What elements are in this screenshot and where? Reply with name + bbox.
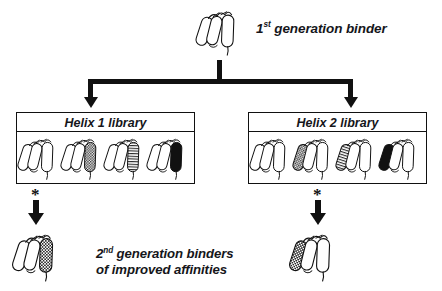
helix-1-library-icon-row: [17, 132, 194, 183]
branch-crossbar: [88, 79, 353, 84]
helix-bundle-svg: [296, 134, 336, 182]
helix-bundle-svg: [150, 134, 190, 182]
helix-bundle-svg: [64, 134, 104, 182]
branch-right-arrowhead: [344, 97, 358, 108]
helix-1-library-box: Helix 1 library: [16, 112, 195, 184]
helix-2-library-title: Helix 2 library: [249, 116, 426, 130]
library-member: [382, 134, 422, 182]
helix-1-library-title: Helix 1 library: [17, 116, 194, 130]
diagram-canvas: 1st generation binder Helix 1 library He…: [0, 0, 442, 291]
library-member: [339, 134, 379, 182]
library-member: [21, 134, 61, 182]
selection-arrow-right-head: [310, 213, 326, 225]
branch-left-arrowhead: [84, 97, 98, 108]
helix-bundle-svg: [293, 229, 339, 284]
branch-right-drop: [348, 79, 353, 99]
helix-2-library-titlebar: Helix 2 library: [249, 113, 426, 132]
helix-bundle-svg: [339, 134, 379, 182]
helix-bundle-svg: [107, 134, 147, 182]
first-gen-binder-icon: [199, 6, 243, 58]
helix-2-library-box: Helix 2 library: [248, 112, 427, 184]
library-member: [107, 134, 147, 182]
helix-1-library-titlebar: Helix 1 library: [17, 113, 194, 132]
library-member: [150, 134, 190, 182]
helix-bundle-svg: [16, 229, 62, 284]
first-gen-binder-label: 1st generation binder: [256, 19, 387, 36]
helix-bundle-svg: [253, 134, 293, 182]
helix-2-library-icon-row: [249, 132, 426, 183]
second-gen-binder-left-icon: [16, 229, 62, 284]
branch-left-drop: [88, 79, 93, 99]
helix-bundle-svg: [382, 134, 422, 182]
selection-arrow-left-head: [28, 213, 44, 225]
library-member: [64, 134, 104, 182]
second-gen-binders-caption: 2nd generation binders of improved affin…: [96, 243, 256, 278]
helix-bundle-svg: [199, 6, 243, 58]
library-member: [296, 134, 336, 182]
second-gen-binder-right-icon: [293, 229, 339, 284]
library-member: [253, 134, 293, 182]
helix-bundle-svg: [21, 134, 61, 182]
